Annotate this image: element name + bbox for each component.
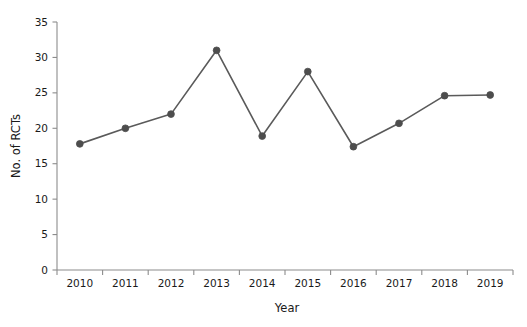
data-point-marker	[487, 92, 494, 99]
y-axis-tick-label: 35	[35, 16, 48, 28]
x-axis-tick-label: 2016	[340, 277, 367, 289]
y-axis-tick-label: 20	[35, 122, 48, 134]
y-axis-tick-label: 5	[41, 228, 48, 240]
data-point-marker	[213, 47, 220, 54]
x-axis-tick-label: 2017	[386, 277, 413, 289]
data-point-marker	[350, 143, 357, 150]
chart-container: 05101520253035 2010201120122013201420152…	[0, 0, 527, 327]
data-point-marker	[259, 133, 266, 140]
x-axis-tick-label: 2013	[203, 277, 230, 289]
x-axis-tick-label: 2011	[112, 277, 139, 289]
x-axis-tick-label: 2019	[477, 277, 504, 289]
y-axis-tick-label: 25	[35, 86, 48, 98]
y-axis-title: No. of RCTs	[9, 114, 23, 178]
data-point-marker	[168, 111, 175, 118]
x-axis-tick-label: 2012	[158, 277, 185, 289]
x-axis-tick-label: 2010	[66, 277, 93, 289]
x-axis-title: Year	[274, 301, 300, 315]
data-point-marker	[304, 68, 311, 75]
data-point-marker	[76, 140, 83, 147]
x-axis-tick-label: 2014	[249, 277, 276, 289]
y-axis-tick-label: 10	[35, 193, 48, 205]
x-axis-tick-label: 2015	[294, 277, 321, 289]
y-axis-tick-label: 0	[41, 264, 48, 276]
data-point-marker	[122, 125, 129, 132]
y-axis-tick-label: 30	[35, 51, 48, 63]
x-axis-tick-label: 2018	[431, 277, 458, 289]
data-point-marker	[441, 92, 448, 99]
data-point-marker	[396, 120, 403, 127]
line-chart: 05101520253035 2010201120122013201420152…	[0, 0, 527, 327]
y-axis-tick-label: 15	[35, 157, 48, 169]
